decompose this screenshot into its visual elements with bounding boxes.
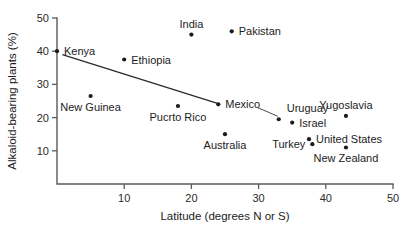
data-point-label: Turkey [272, 138, 306, 150]
data-point[interactable] [230, 29, 234, 33]
data-point[interactable] [122, 57, 126, 61]
x-axis-tick-label: 40 [320, 192, 332, 204]
data-point[interactable] [277, 117, 281, 121]
data-point[interactable] [344, 145, 348, 149]
data-point[interactable] [189, 33, 193, 37]
data-point[interactable] [290, 120, 294, 124]
data-point-label: New Guinea [60, 101, 121, 113]
data-point[interactable] [216, 102, 220, 106]
data-point[interactable] [344, 114, 348, 118]
data-point[interactable] [223, 132, 227, 136]
data-point-label: India [179, 18, 204, 30]
data-point-label: New Zealand [314, 152, 379, 164]
data-point-label: Australia [204, 139, 248, 151]
x-axis-title: Latitude (degrees N or S) [160, 210, 289, 222]
data-point[interactable] [89, 94, 93, 98]
label-leader-line [257, 107, 278, 116]
scatter-plot-figure: 10203040501020304050Latitude (degrees N … [0, 0, 416, 228]
data-point[interactable] [176, 104, 180, 108]
data-point-label: Kenya [64, 45, 96, 57]
y-axis-tick-label: 40 [37, 45, 49, 57]
data-point-label: Yugoslavia [319, 99, 373, 111]
data-point[interactable] [55, 49, 59, 53]
data-point-label: Pakistan [239, 25, 281, 37]
data-point[interactable] [307, 137, 311, 141]
data-point-label: Ethiopia [131, 54, 172, 66]
data-point[interactable] [310, 142, 314, 146]
x-axis-tick-label: 50 [387, 192, 399, 204]
data-point-label: Israel [299, 117, 326, 129]
data-point-label: Pucrto Rico [150, 111, 207, 123]
data-point-label: United States [316, 133, 383, 145]
y-axis-tick-label: 10 [37, 145, 49, 157]
y-axis-tick-label: 50 [37, 12, 49, 24]
x-axis-tick-label: 30 [252, 192, 264, 204]
y-axis-tick-label: 30 [37, 78, 49, 90]
x-axis-tick-label: 20 [185, 192, 197, 204]
y-axis-title: Alkaloid-bearing plants (%) [6, 32, 18, 170]
y-axis-tick-label: 20 [37, 112, 49, 124]
plot-canvas: 10203040501020304050Latitude (degrees N … [0, 0, 416, 228]
x-axis-tick-label: 10 [118, 192, 130, 204]
data-point-label: Mexico [225, 98, 260, 110]
